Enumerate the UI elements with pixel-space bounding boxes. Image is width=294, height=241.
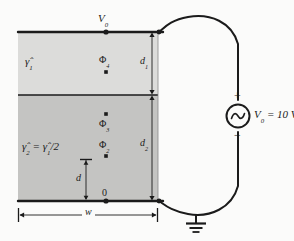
top-node-label: V0 xyxy=(98,12,108,26)
node-marker-bottom xyxy=(103,198,108,203)
w-arrowhead-left xyxy=(20,213,25,218)
w-arrowhead-right xyxy=(152,213,157,218)
source-plus-label: + xyxy=(234,89,241,104)
node-label-phi2: Φ2 xyxy=(99,139,109,152)
circuit-loop-wire xyxy=(159,16,238,100)
node-marker-top xyxy=(103,29,108,34)
node-marker-phi2 xyxy=(104,154,108,158)
terminal-dot-bottom xyxy=(157,199,162,204)
upper-material-label: γ̂1 xyxy=(25,55,33,69)
terminal-dot-top xyxy=(157,30,162,35)
circuit-loop-wire-lower xyxy=(159,132,238,215)
d1-dimension-label: d1 xyxy=(140,55,148,68)
node-label-phi4: Φ4 xyxy=(99,54,109,67)
lower-material-label: γ̂2 = γ̂1/2 xyxy=(22,140,59,154)
d2-dimension-label: d2 xyxy=(140,137,148,150)
capacitor-circuit-diagram xyxy=(0,0,294,241)
source-value-label: V0 = 10 V xyxy=(254,108,294,122)
node-label-zero: 0 xyxy=(102,187,107,198)
node-marker-phi4 xyxy=(104,70,108,74)
node-marker-phi3-upper xyxy=(104,112,108,116)
node-label-phi3: Φ3 xyxy=(99,118,109,131)
w-dimension-label: w xyxy=(82,206,95,217)
source-minus-label: − xyxy=(234,128,241,143)
upper-dielectric-region xyxy=(18,32,158,95)
d-dimension-label: d xyxy=(76,172,81,183)
